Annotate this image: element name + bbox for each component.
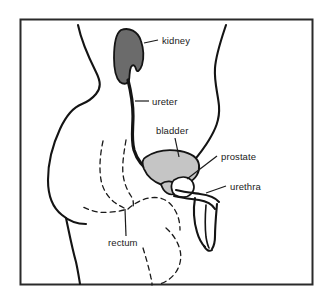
prostate-organ <box>171 177 194 197</box>
anatomy-diagram-canvas: kidney ureter bladder prostate urethra r… <box>0 0 329 302</box>
label-kidney: kidney <box>162 35 190 46</box>
label-rectum: rectum <box>108 237 138 248</box>
label-urethra: urethra <box>230 181 261 192</box>
label-bladder: bladder <box>156 125 188 136</box>
label-ureter: ureter <box>152 96 177 107</box>
anatomy-diagram-figure: kidney ureter bladder prostate urethra r… <box>0 0 329 302</box>
label-prostate: prostate <box>221 151 256 162</box>
